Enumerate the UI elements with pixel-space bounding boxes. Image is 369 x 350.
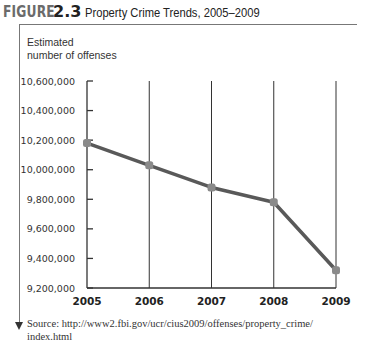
x-tick-label: 2007 <box>197 295 226 307</box>
y-tick-label: 10,000,000 <box>21 164 75 175</box>
y-tick-label: 9,600,000 <box>27 223 75 234</box>
y-tick-label: 9,400,000 <box>27 253 75 264</box>
x-tick-label: 2008 <box>259 295 288 307</box>
line-chart: 9,200,0009,400,0009,600,0009,800,00010,0… <box>0 0 369 350</box>
data-point-marker <box>83 139 91 147</box>
y-tick-label: 10,400,000 <box>21 105 75 116</box>
x-tick-label: 2009 <box>321 295 350 307</box>
source-line2: index.html <box>27 330 367 343</box>
data-point-marker <box>208 183 216 191</box>
y-tick-label: 10,600,000 <box>21 76 75 87</box>
source-line1: Source: http://www2.fbi.gov/ucr/cius2009… <box>27 317 367 330</box>
data-point-marker <box>145 161 153 169</box>
data-point-marker <box>332 266 340 274</box>
y-tick-label: 9,800,000 <box>27 194 75 205</box>
x-tick-label: 2006 <box>135 295 164 307</box>
data-point-marker <box>270 198 278 206</box>
x-tick-label: 2005 <box>72 295 101 307</box>
y-tick-label: 9,200,000 <box>27 283 75 294</box>
source-note: Source: http://www2.fbi.gov/ucr/cius2009… <box>27 317 367 343</box>
y-tick-label: 10,200,000 <box>21 135 75 146</box>
